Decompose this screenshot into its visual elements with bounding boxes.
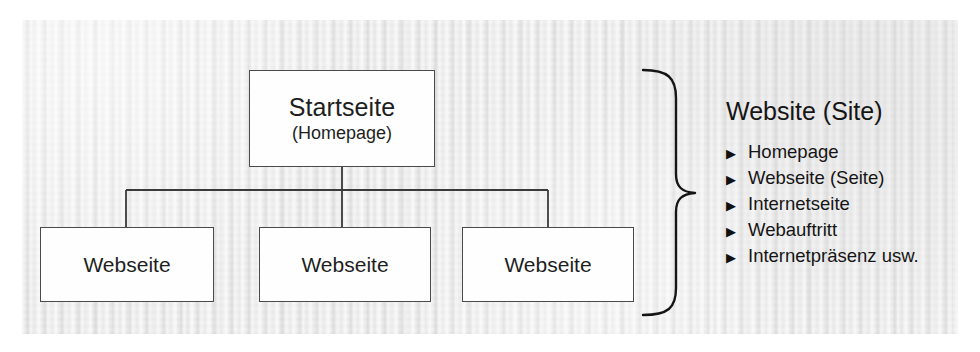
diagram-figure: Startseite (Homepage) Webseite Webseite … (0, 0, 980, 352)
node-webseite-3-label: Webseite (504, 253, 591, 277)
triangle-bullet-icon: ▶ (726, 194, 748, 218)
legend-item: ▶ Webauftritt (726, 218, 961, 244)
node-webseite-2-label: Webseite (301, 253, 388, 277)
legend-item-label: Internetpräsenz usw. (748, 244, 919, 268)
node-startseite-title: Startseite (289, 94, 396, 120)
legend-item-label: Internetseite (748, 192, 850, 216)
legend-item-label: Homepage (748, 140, 839, 164)
triangle-bullet-icon: ▶ (726, 246, 748, 270)
node-webseite-1-label: Webseite (83, 253, 170, 277)
triangle-bullet-icon: ▶ (726, 168, 748, 192)
legend-item-label: Webauftritt (748, 218, 837, 242)
legend-item: ▶ Homepage (726, 140, 961, 166)
legend-item-label: Webseite (Seite) (748, 166, 884, 190)
node-webseite-1: Webseite (40, 227, 214, 302)
node-startseite: Startseite (Homepage) (249, 70, 435, 167)
legend-item: ▶ Webseite (Seite) (726, 166, 961, 192)
legend-item: ▶ Internetpräsenz usw. (726, 244, 961, 270)
legend-title: Website (Site) (726, 98, 961, 126)
legend-panel: Website (Site) ▶ Homepage ▶ Webseite (Se… (726, 98, 961, 270)
node-startseite-subtitle: (Homepage) (292, 123, 392, 144)
node-webseite-3: Webseite (462, 227, 634, 302)
node-webseite-2: Webseite (259, 227, 431, 302)
legend-item: ▶ Internetseite (726, 192, 961, 218)
triangle-bullet-icon: ▶ (726, 220, 748, 244)
triangle-bullet-icon: ▶ (726, 142, 748, 166)
